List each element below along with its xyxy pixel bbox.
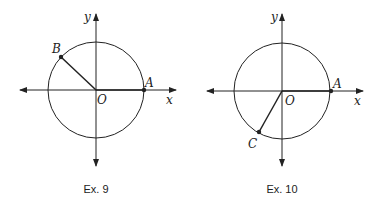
label-a: A: [144, 76, 154, 90]
label-origin: O: [285, 94, 295, 108]
label-b: B: [51, 42, 61, 56]
figure-ex9: y B A O x Ex. 9: [20, 10, 176, 195]
caption: Ex. 10: [266, 183, 297, 195]
point-c: [257, 130, 261, 134]
caption: Ex. 9: [83, 183, 108, 195]
label-c: C: [248, 137, 257, 151]
label-x: x: [166, 93, 173, 107]
label-y: y: [83, 10, 91, 24]
figure-ex10: y C A O x Ex. 10: [207, 10, 363, 195]
label-y: y: [270, 10, 278, 24]
radius-ob: [61, 57, 96, 90]
radius-oc: [259, 91, 282, 132]
label-origin: O: [97, 93, 107, 107]
diagram-canvas: y B A O x Ex. 9 y C A O x Ex. 10: [0, 0, 374, 200]
label-x: x: [354, 94, 361, 108]
label-a: A: [332, 77, 342, 91]
